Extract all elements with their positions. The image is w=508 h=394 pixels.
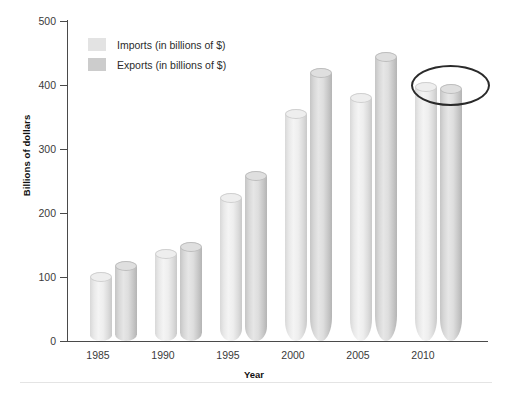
bar-body (375, 57, 397, 341)
bar-top-ellipse (90, 272, 112, 282)
x-axis-line (67, 341, 488, 342)
x-tick-label-1985: 1985 (68, 350, 128, 361)
bar-2010-imports (415, 82, 437, 341)
y-tick-400 (60, 85, 68, 86)
x-tick-label-2010: 2010 (393, 350, 453, 361)
bottom-divider (20, 382, 492, 383)
y-tick-label-0: 0 (16, 336, 56, 347)
legend-label-exports: Exports (in billions of $) (117, 59, 226, 71)
bar-1995-exports (245, 171, 267, 341)
y-tick-label-100: 100 (16, 272, 56, 283)
bar-2000-imports (285, 109, 307, 341)
y-tick-500 (60, 21, 68, 22)
legend-label-imports: Imports (in billions of $) (117, 39, 226, 51)
bar-body (285, 114, 307, 341)
bar-2005-imports (350, 93, 372, 341)
bar-2010-exports (440, 84, 462, 341)
y-axis-title: Billions of dollars (21, 86, 32, 226)
bar-body (440, 89, 462, 341)
y-tick-label-500: 500 (16, 16, 56, 27)
x-tick-label-1995: 1995 (198, 350, 258, 361)
chart-legend: Imports (in billions of $) Exports (in b… (88, 36, 308, 76)
y-tick-label-200: 200 (16, 208, 56, 219)
bar-body (350, 98, 372, 341)
x-axis-title: Year (0, 369, 508, 380)
bar-body (115, 266, 137, 341)
legend-item-imports: Imports (in billions of $) (88, 36, 308, 53)
x-tick-label-1990: 1990 (133, 350, 193, 361)
bar-top-ellipse (115, 261, 137, 271)
bar-1985-imports (90, 272, 112, 341)
bar-1985-exports (115, 261, 137, 341)
bar-1990-exports (180, 242, 202, 341)
y-tick-label-400: 400 (16, 80, 56, 91)
chart-figure: Billions of dollars 500 400 300 200 100 … (0, 0, 508, 394)
bar-body (310, 73, 332, 341)
bar-1990-imports (155, 249, 177, 341)
y-tick-300 (60, 149, 68, 150)
legend-swatch-exports (88, 58, 106, 71)
bar-body (155, 254, 177, 341)
y-tick-label-300: 300 (16, 144, 56, 155)
bar-body (220, 198, 242, 341)
y-tick-200 (60, 213, 68, 214)
bar-2000-exports (310, 68, 332, 341)
bar-top-ellipse (155, 249, 177, 259)
bar-top-ellipse (350, 93, 372, 103)
x-tick-label-2005: 2005 (328, 350, 388, 361)
x-tick-label-2000: 2000 (263, 350, 323, 361)
bar-body (245, 176, 267, 341)
legend-swatch-imports (88, 38, 106, 51)
legend-item-exports: Exports (in billions of $) (88, 56, 308, 73)
bar-body (180, 247, 202, 341)
y-tick-100 (60, 277, 68, 278)
bar-body (90, 277, 112, 341)
ellipse-highlight-annotation (411, 65, 490, 106)
bar-body (415, 87, 437, 341)
bar-2005-exports (375, 52, 397, 341)
bar-top-ellipse (245, 171, 267, 181)
bar-1995-imports (220, 193, 242, 341)
